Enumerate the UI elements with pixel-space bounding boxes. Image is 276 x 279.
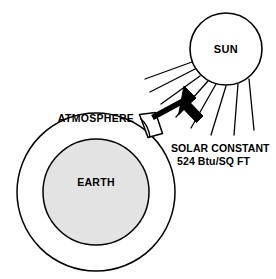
diagram-canvas: SUN ATMOSPHERE EARTH xyxy=(0,0,276,279)
sun-ray-2 xyxy=(150,69,195,92)
earth-group: EARTH xyxy=(43,139,149,245)
sun-label: SUN xyxy=(214,43,238,55)
solar-constant-diagram: SUN ATMOSPHERE EARTH xyxy=(0,0,276,279)
sun-ray-6 xyxy=(211,86,226,135)
atmosphere-label: ATMOSPHERE xyxy=(58,112,134,124)
solar-constant-value: 524 Btu/SQ FT xyxy=(177,155,251,167)
solar-constant-label: SOLAR CONSTANT xyxy=(171,142,270,154)
sun-ray-7 xyxy=(234,84,238,135)
annotation-group: SOLAR CONSTANT 524 Btu/SQ FT xyxy=(171,142,270,167)
earth-label: EARTH xyxy=(77,176,115,188)
sun-group: SUN xyxy=(190,13,262,85)
sun-ray-1 xyxy=(145,62,192,79)
earth-circle xyxy=(43,139,149,245)
sun-ray-8 xyxy=(249,79,254,130)
